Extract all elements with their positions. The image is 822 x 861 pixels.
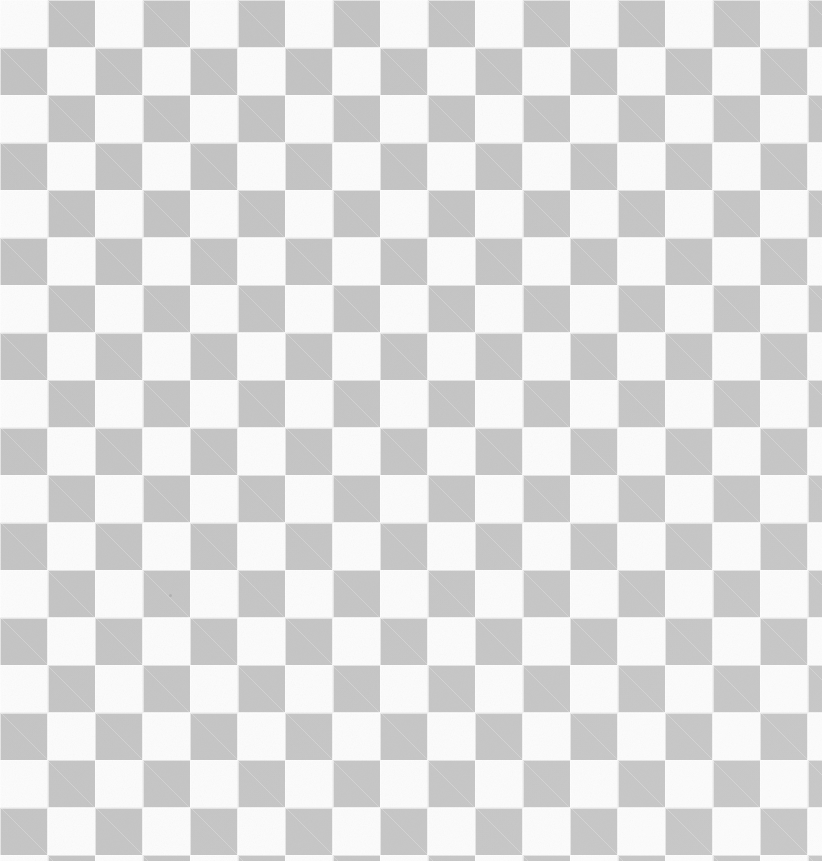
checkerboard-canvas <box>0 0 822 861</box>
checkerboard-pattern <box>0 0 822 861</box>
